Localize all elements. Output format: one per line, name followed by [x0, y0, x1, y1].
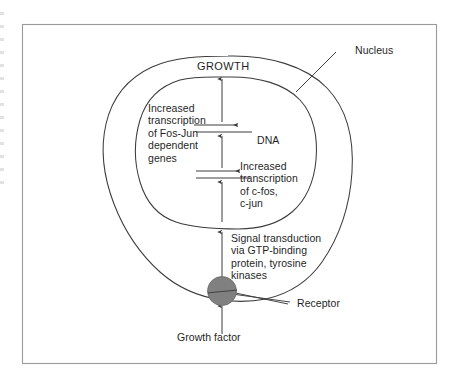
- cell-signaling-diagram: [0, 0, 461, 381]
- figure-frame: [23, 25, 437, 364]
- receptor-label: Receptor: [297, 297, 340, 309]
- growth-label: GROWTH: [197, 60, 250, 72]
- cfos-cjun-transcription-label: Increased transcription of c-fos, c-jun: [240, 160, 298, 210]
- signal-transduction-label: Signal transduction via GTP-binding prot…: [231, 232, 321, 282]
- fos-jun-transcription-label: Increased transcription of Fos-Jun depen…: [148, 102, 206, 164]
- nucleus-leader-line: [296, 52, 336, 92]
- growth-factor-label: Growth factor: [177, 331, 241, 343]
- nucleus-label: Nucleus: [355, 44, 393, 56]
- dna-label: DNA: [257, 134, 279, 146]
- figure-root: GROWTH Nucleus DNA Receptor Growth facto…: [0, 0, 461, 381]
